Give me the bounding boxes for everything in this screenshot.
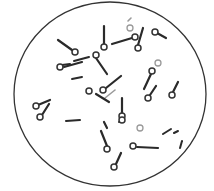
bacillus-rod (58, 40, 72, 50)
rod (174, 131, 178, 133)
bacillus-with-spore (100, 76, 121, 93)
free-spore (127, 25, 133, 31)
terminal-spore (145, 95, 151, 101)
bacillus-rod (96, 58, 107, 74)
bacillus-with-spore (112, 34, 138, 44)
bacillus-with-spore (145, 86, 156, 101)
bacillus-rod (138, 28, 143, 45)
bacillus-with-spore (101, 131, 110, 152)
terminal-spore (149, 68, 155, 74)
bacillus-with-spore (93, 52, 107, 74)
terminal-spore (132, 34, 138, 40)
bacillus-rod (42, 104, 49, 115)
rod (72, 77, 82, 79)
terminal-spore (119, 117, 125, 123)
bacillus-rod (116, 153, 121, 164)
terminal-spore (135, 45, 141, 51)
micrograph-illustration: Microscopic field with drumstick-shaped … (0, 0, 214, 191)
bacillus-with-spore (130, 143, 158, 149)
free-spore (137, 125, 143, 131)
bacillus-with-spore (119, 98, 125, 119)
terminal-spore (101, 44, 107, 50)
rod (66, 120, 80, 121)
terminal-spore (152, 29, 158, 35)
bacillus-rod (96, 94, 109, 102)
bacillus-rod (112, 38, 132, 44)
bacillus-rod (150, 86, 156, 95)
bacillus-rod (106, 76, 121, 88)
free-spore (155, 60, 161, 66)
terminal-spore (72, 49, 78, 55)
terminal-spore (111, 164, 117, 170)
terminal-spore (33, 103, 39, 109)
bacillus-with-spore (111, 153, 121, 170)
bacillus-rod (137, 147, 158, 148)
bacillus-with-spore (58, 40, 78, 55)
bacillus-with-spore (152, 29, 166, 38)
terminal-spore (104, 146, 110, 152)
terminal-spore (169, 92, 175, 98)
terminal-spore (100, 87, 106, 93)
bacillus-with-spore (101, 26, 107, 50)
bacillus-rod (157, 33, 166, 38)
rod (128, 18, 131, 21)
terminal-spore (130, 143, 136, 149)
bacillus-with-spore (104, 117, 125, 128)
rod (180, 141, 182, 148)
terminal-spore (57, 64, 63, 70)
bacillus-rod (144, 74, 151, 89)
terminal-spore (93, 52, 99, 58)
bacillus-rod (173, 82, 178, 92)
free-spores-group (127, 25, 161, 131)
rod (74, 57, 89, 61)
bacillus-with-spore (144, 68, 155, 89)
terminal-spore (37, 114, 43, 120)
microscope-field-svg (0, 0, 214, 191)
terminal-spore (86, 88, 92, 94)
bacillus-rod (101, 131, 107, 146)
rod (163, 129, 171, 134)
bacillus-with-spore (169, 82, 178, 98)
bacillus-rod (104, 122, 107, 128)
